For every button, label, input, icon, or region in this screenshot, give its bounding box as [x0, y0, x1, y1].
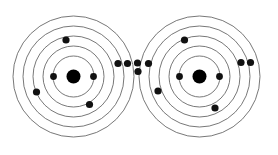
electron-dot	[181, 36, 188, 43]
outer-electron-dot	[247, 59, 254, 66]
electron-dot	[62, 36, 69, 43]
bond-electron-dot	[134, 68, 141, 75]
electron-dot	[216, 73, 223, 80]
nucleus	[193, 70, 207, 84]
electron-dot	[90, 73, 97, 80]
bond-electron-dot	[114, 60, 121, 67]
electron-dot	[50, 73, 57, 80]
electron-dot	[86, 101, 93, 108]
nucleus	[67, 70, 81, 84]
bond-electron-dot	[145, 60, 152, 67]
outer-electron-dot	[237, 59, 244, 66]
electron-dot	[176, 73, 183, 80]
electron-dot	[154, 87, 161, 94]
molecule-svg	[0, 0, 278, 155]
bohr-model-diagram	[0, 0, 278, 155]
bond-electron-dot	[124, 60, 131, 67]
electron-dot	[33, 88, 40, 95]
bond-electron-dot	[134, 59, 141, 66]
electron-dot	[211, 104, 218, 111]
